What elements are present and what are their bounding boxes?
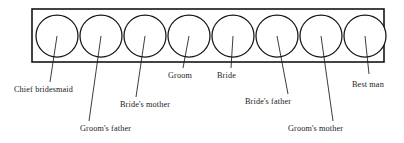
person-label-7: Groom's mother [288,124,343,133]
person-labels-layer: Chief bridesmaidGroom's fatherBride's mo… [14,71,384,133]
person-label-5: Bride [217,71,236,80]
person-label-2: Groom's father [80,124,131,133]
person-label-1: Chief bridesmaid [14,85,73,94]
person-label-6: Bride's father [245,97,291,106]
person-circles-layer [36,15,386,57]
diagram-canvas: Chief bridesmaidGroom's fatherBride's mo… [0,0,404,143]
receiving-line-diagram: Chief bridesmaidGroom's fatherBride's mo… [0,0,404,143]
person-label-8: Best man [352,80,384,89]
person-label-3: Bride's mother [120,100,170,109]
person-label-4: Groom [168,71,192,80]
